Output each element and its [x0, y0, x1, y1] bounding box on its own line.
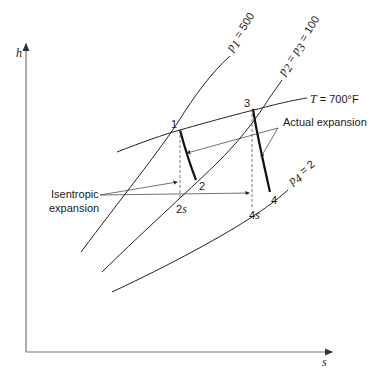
- state-point-4s: 4s: [249, 208, 260, 222]
- h-axis-label: h: [16, 46, 22, 60]
- state-point-2s: 2s: [176, 202, 187, 216]
- isobar-p2-p3-label: p2 = p3 = 100: [274, 13, 325, 80]
- isobar-p2-p3-line: [102, 80, 282, 272]
- isobar-p4-line: [112, 190, 288, 292]
- isentropic-leader-a: [100, 182, 177, 195]
- state-point-2: 2: [199, 180, 205, 192]
- isentropic-label-line1: Isentropic: [51, 188, 99, 200]
- isentropic-leader-b: [100, 193, 249, 195]
- isentropic-label-line2: expansion: [49, 202, 99, 214]
- isobar-p4-label: p4 = 2: [284, 157, 319, 190]
- actual-leader-b: [261, 128, 278, 157]
- isotherm-700f-line: [117, 98, 307, 152]
- isobar-p1-label: p1 = 500: [222, 10, 260, 56]
- isobar-p1-line: [81, 56, 230, 252]
- isotherm-label: T = 700°F: [310, 92, 359, 106]
- state-point-4: 4: [271, 194, 277, 206]
- actual-leader-a: [187, 128, 278, 153]
- hs-diagram: h s p1 = 500 p2 = p3 = 100 p4 = 2 T = 70…: [0, 0, 378, 374]
- state-point-1: 1: [171, 118, 177, 130]
- s-axis-label: s: [322, 355, 327, 369]
- actual-expansion-label: Actual expansion: [283, 116, 367, 128]
- actual-expansion-1-2: [180, 130, 196, 180]
- actual-expansion-3-4: [253, 109, 270, 192]
- state-point-3: 3: [244, 97, 250, 109]
